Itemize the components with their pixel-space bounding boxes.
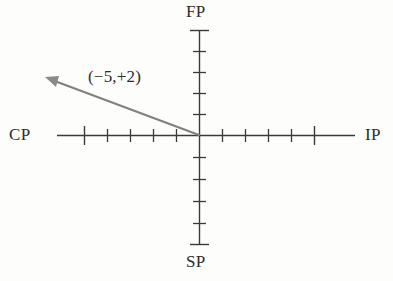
axis-label-cp: CP	[9, 126, 30, 143]
axis-label-ip: IP	[365, 126, 381, 143]
vector-shaft	[52, 80, 199, 135]
vector-arrowhead	[45, 76, 59, 87]
vector-coordinate-label: (−5,+2)	[88, 68, 141, 85]
axis-label-fp: FP	[186, 3, 206, 20]
coordinate-plot-canvas	[0, 0, 393, 281]
vector-diagram-figure: CP IP FP SP (−5,+2)	[0, 0, 393, 281]
axis-label-sp: SP	[186, 253, 206, 270]
